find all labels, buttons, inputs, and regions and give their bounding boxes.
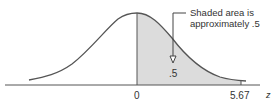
annotation-line1: Shaded area is (190, 7, 254, 18)
x-tick-label-0: 0 (134, 90, 140, 101)
shaded-area-value-label: .5 (169, 68, 178, 79)
x-tick-label-5-67: 5.67 (230, 90, 250, 101)
x-axis-label: z (265, 90, 271, 100)
annotation-line2: approximately .5 (190, 18, 260, 29)
normal-curve-chart: Shaded area is approximately .5 .5 0 5.6… (0, 0, 278, 103)
